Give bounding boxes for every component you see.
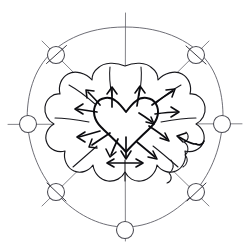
node-southeast[interactable] (187, 183, 206, 201)
diagram-root: Hand-drawn radial mandala with heart-cen… (0, 0, 249, 251)
node-east[interactable] (214, 116, 231, 133)
node-west[interactable] (20, 116, 37, 133)
node-west-circle (20, 116, 37, 133)
node-east-circle (214, 116, 231, 133)
node-south-circle (117, 222, 134, 239)
radial-mandala-diagram (0, 0, 249, 251)
node-south[interactable] (117, 222, 134, 239)
